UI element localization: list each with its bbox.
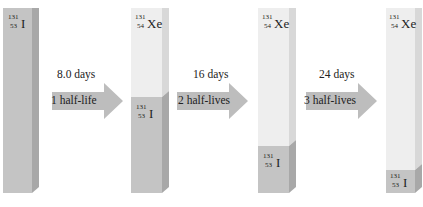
iodine-segment — [131, 97, 162, 193]
arrow-2-halflives: 2 half-lives — [178, 94, 230, 106]
bar-side — [289, 8, 296, 193]
bar-2-halflives: 131 54 Xe 131 53 I — [258, 8, 296, 193]
bar-side — [415, 8, 422, 193]
bar-front — [258, 8, 289, 193]
xenon-segment — [386, 8, 415, 170]
arrow-3-halflives: 3 half-lives — [304, 94, 356, 106]
arrow-2-time: 16 days — [193, 68, 228, 80]
iodine-segment — [3, 8, 32, 193]
arrow-1-halflives: 1 half-life — [51, 94, 97, 106]
arrow-1-time: 8.0 days — [57, 68, 95, 80]
bar-1-halflife: 131 54 Xe 131 53 I — [131, 8, 169, 193]
bar-front — [386, 8, 415, 193]
bar-front — [131, 8, 162, 193]
bar-start: 131 53 I — [3, 8, 39, 193]
bar-side — [32, 8, 39, 193]
bar-3-halflives: 131 54 Xe 131 53 I — [386, 8, 422, 193]
bar-side — [162, 8, 169, 193]
arrow-3-time: 24 days — [319, 68, 354, 80]
